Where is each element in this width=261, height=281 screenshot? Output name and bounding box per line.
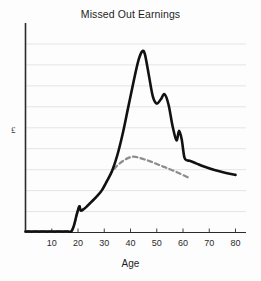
series-line-solid <box>26 51 236 232</box>
data-series <box>26 51 236 232</box>
x-tick-label: 40 <box>119 238 143 248</box>
x-axis-ticks <box>52 229 236 233</box>
chart-container: Missed Out Earnings £ 1020304050607080 A… <box>0 0 261 281</box>
series-line-dashed <box>26 157 189 232</box>
x-tick-label: 30 <box>92 238 116 248</box>
x-tick-label: 80 <box>224 238 248 248</box>
x-tick-label: 20 <box>66 238 90 248</box>
x-tick-label: 70 <box>197 238 221 248</box>
x-tick-label: 60 <box>171 238 195 248</box>
x-tick-label: 10 <box>40 238 64 248</box>
x-axis-title: Age <box>0 258 261 269</box>
x-tick-label: 50 <box>145 238 169 248</box>
